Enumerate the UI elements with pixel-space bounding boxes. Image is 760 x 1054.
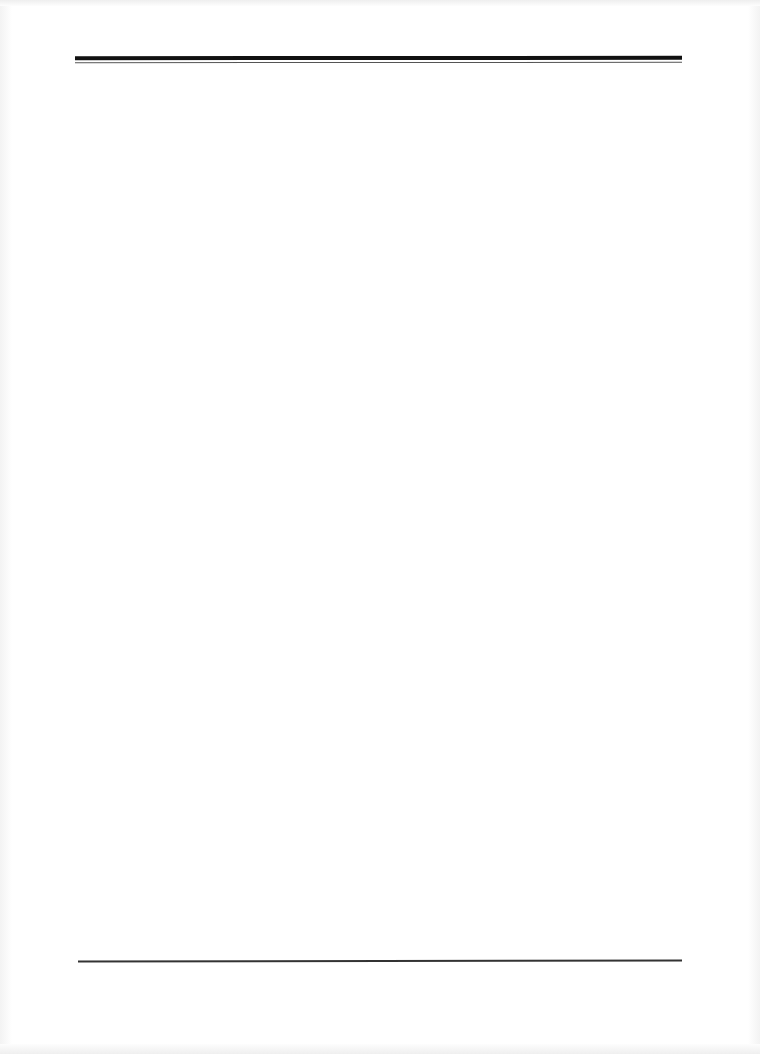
scan-edge-bottom xyxy=(0,1044,760,1054)
scan-edge-top xyxy=(0,0,760,6)
footer-rule xyxy=(78,960,682,963)
header-rule-thick xyxy=(75,56,682,61)
header-rule-thin xyxy=(75,62,682,64)
document-page xyxy=(0,0,760,1054)
page-body xyxy=(75,70,682,950)
